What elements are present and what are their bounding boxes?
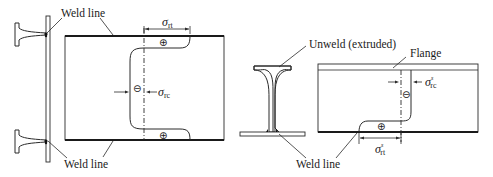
sigma-rt-s-label: σsrt — [375, 142, 386, 157]
top-tension-sign: ⊕ — [159, 37, 167, 48]
i-section-profile — [254, 66, 291, 133]
left-welded-section: Weld line Weld line σrt σrc ⊕ ⊖ ⊕ — [15, 7, 224, 170]
weld-line-leader-to-section — [279, 134, 306, 158]
flange-label: Flange — [410, 47, 441, 60]
top-stiffener — [15, 23, 48, 46]
extruded-tension-sign: ⊕ — [377, 121, 385, 132]
unweld-leader — [279, 46, 306, 67]
extruded-weld-line-label: Weld line — [296, 158, 340, 170]
weld-line-bottom-label: Weld line — [64, 158, 108, 170]
weld-line-bottom-leader — [48, 141, 67, 158]
weld-line-leader-to-plate — [336, 133, 357, 158]
extruded-compression-sign: ⊖ — [402, 89, 410, 100]
compression-sign: ⊖ — [133, 83, 141, 94]
bottom-tension-sign: ⊕ — [159, 130, 167, 141]
extruded-plate-elevation — [318, 64, 478, 132]
sigma-rt-label: σrt — [162, 15, 174, 30]
bottom-stiffener — [15, 130, 48, 153]
right-extruded-section: Unweld (extruded) Flange σsrc σsrt ⊖ ⊕ W… — [240, 38, 478, 170]
plate-elevation — [65, 36, 224, 140]
weld-line-top-label: Weld line — [61, 7, 105, 19]
unweld-label: Unweld (extruded) — [309, 38, 396, 51]
residual-stress-diagram: Weld line Weld line σrt σrc ⊕ ⊖ ⊕ — [0, 0, 493, 177]
base-plate — [240, 132, 305, 136]
